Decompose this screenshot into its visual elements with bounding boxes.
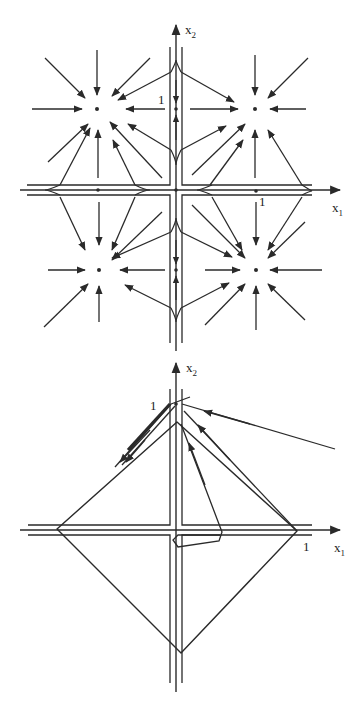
trajectory-line — [122, 406, 175, 465]
saddle-point — [174, 268, 178, 272]
phase-portrait-figure: x1x211 x1x211 — [0, 0, 361, 712]
flow-arrow — [125, 285, 171, 308]
flow-arrow — [112, 232, 171, 258]
flow-arrow — [113, 140, 135, 185]
saddle-point — [254, 189, 258, 193]
stable-node-point — [254, 268, 258, 272]
flow-arrow — [112, 212, 162, 260]
flow-arrow — [210, 140, 243, 185]
flow-arrow — [181, 232, 232, 257]
flow-arrow — [268, 130, 302, 185]
converging-bundle — [128, 404, 170, 450]
separatrix-line — [182, 535, 312, 683]
top-phase-portrait: x1x211 — [20, 22, 343, 351]
stable-node-point — [253, 107, 257, 111]
flow-arrow — [268, 222, 305, 258]
flow-arrow — [212, 197, 242, 250]
trajectory-line — [171, 397, 190, 404]
trajectory-arrow — [120, 430, 150, 462]
saddle-point — [174, 107, 178, 111]
separatrix-line — [182, 195, 312, 343]
flow-arrow — [44, 284, 88, 327]
bottom-phase-portrait: x1x211 — [20, 360, 345, 692]
flow-arrow — [181, 283, 229, 308]
diagram-canvas: x1x211 x1x211 — [0, 0, 361, 712]
flow-arrow — [128, 124, 171, 150]
saddle-point — [96, 188, 100, 192]
flow-arrow — [268, 284, 305, 320]
equilibrium-point — [174, 402, 178, 406]
diamond-trajectory — [57, 422, 297, 653]
separatrix-line — [28, 535, 170, 683]
x1-axis-label: x1 — [334, 540, 345, 558]
x1-axis-label: x1 — [332, 200, 343, 218]
stable-node-point — [97, 268, 101, 272]
tick-label: 1 — [150, 398, 157, 413]
flow-arrow — [268, 58, 308, 98]
flow-arrow — [60, 197, 85, 250]
trajectory-arrow — [204, 411, 250, 424]
separatrix-line — [28, 389, 170, 525]
flow-arrow — [205, 284, 245, 325]
tick-label: 1 — [259, 194, 266, 209]
saddle-point — [174, 188, 178, 192]
flow-arrow — [192, 124, 245, 175]
flow-arrow — [112, 58, 150, 96]
x2-axis-label: x2 — [186, 360, 197, 378]
x2-axis-label: x2 — [185, 22, 196, 40]
trajectory-arrow — [189, 443, 205, 485]
stable-node-point — [95, 107, 99, 111]
flow-arrow — [181, 126, 226, 150]
flow-arrow — [181, 72, 234, 102]
separatrix-line — [182, 47, 312, 185]
tick-label: 1 — [303, 539, 310, 554]
tick-label: 1 — [158, 92, 165, 107]
flow-arrow — [45, 58, 85, 98]
